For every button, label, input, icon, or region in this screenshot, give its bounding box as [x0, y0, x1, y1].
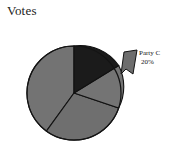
pie-chart-figure: Votes Party C 20%	[0, 0, 179, 163]
callout-pointer-icon	[121, 50, 137, 74]
callout-label-name: Party C	[139, 49, 160, 58]
pie-chart-svg	[0, 0, 179, 163]
callout-label-value: 20%	[141, 58, 154, 67]
